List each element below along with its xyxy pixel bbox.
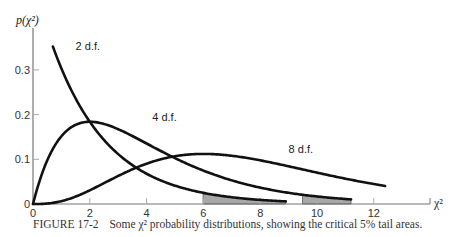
chi-square-chart: 02468101200.10.20.3 p(χ²)χ²2 d.f.4 d.f.8… (0, 0, 462, 237)
figure-number: FIGURE 17-2 (33, 218, 99, 230)
y-tick-label: 0.3 (15, 64, 30, 76)
curve-label: 8 d.f. (289, 143, 313, 155)
y-tick-label: 0 (24, 198, 30, 210)
figure-caption: FIGURE 17-2 Some χ² probability distribu… (33, 218, 422, 230)
y-tick-label: 0.1 (15, 153, 30, 165)
curve-label: 4 d.f. (152, 111, 176, 123)
x-axis-label: χ² (433, 196, 443, 210)
y-tick-label: 0.2 (15, 109, 30, 121)
y-axis-label: p(χ²) (15, 13, 39, 27)
curve-label: 2 d.f. (76, 40, 100, 52)
caption-text: Some χ² probability distributions, showi… (109, 218, 422, 230)
curve-2df (53, 47, 286, 202)
curves (33, 47, 385, 205)
